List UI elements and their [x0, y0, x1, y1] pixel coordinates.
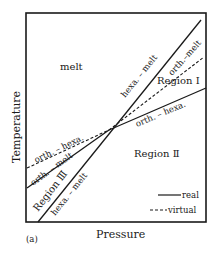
hexa-melt-upper-label: hexa. – melt	[119, 52, 160, 99]
y-axis-label: Temperature	[10, 91, 23, 163]
orth-hexa-right-label: orth. – hexa.	[134, 99, 187, 129]
panel-label: (a)	[26, 234, 38, 244]
x-axis-label: Pressure	[96, 228, 145, 241]
legend-real-label: real	[182, 190, 199, 200]
region-1-label: Region Ⅰ	[157, 75, 200, 86]
hexa-melt-line	[38, 20, 201, 222]
region-melt-label: melt	[60, 61, 83, 72]
phase-diagram: melt Region Ⅰ Region Ⅱ Region Ⅲ hexa. – …	[0, 0, 216, 261]
region-2-label: Region Ⅱ	[134, 148, 180, 159]
legend-virtual-label: virtual	[167, 205, 197, 215]
